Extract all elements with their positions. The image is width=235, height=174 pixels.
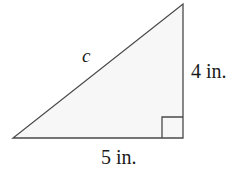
hypotenuse-label: c [82, 46, 90, 65]
horizontal-leg-label: 5 in. [101, 147, 137, 167]
triangle-outline [13, 4, 183, 138]
right-triangle-figure: c 4 in. 5 in. [0, 0, 235, 174]
vertical-leg-label: 4 in. [191, 61, 227, 81]
